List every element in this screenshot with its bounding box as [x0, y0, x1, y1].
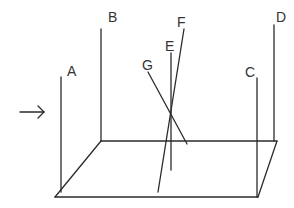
label-c: C	[245, 64, 255, 80]
label-d: D	[276, 9, 286, 25]
label-b: B	[108, 9, 117, 25]
floor-plane	[55, 141, 277, 197]
label-g: G	[142, 57, 153, 73]
floor-right-edge	[258, 141, 277, 197]
floor-left-edge	[55, 141, 101, 197]
diagram-canvas: A B C D E F G	[0, 0, 294, 208]
label-a: A	[67, 63, 77, 79]
label-f: F	[177, 14, 186, 30]
arrow-icon	[20, 106, 44, 118]
label-e: E	[165, 38, 174, 54]
